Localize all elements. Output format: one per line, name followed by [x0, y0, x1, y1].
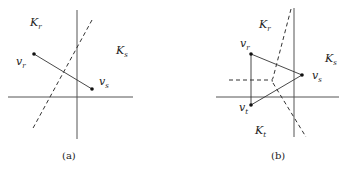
point-vs: [300, 73, 304, 77]
panel-b: Kr Ks Kt vr vs vt (b): [216, 8, 339, 161]
segment-vr-vs: [34, 54, 92, 89]
bisector-rs-dashed-line: [273, 9, 291, 78]
label-kr: Kr: [258, 18, 271, 33]
panel-a: Kr Ks vr vs (a): [8, 10, 133, 161]
junction-curve: [272, 78, 273, 83]
label-ks: Ks: [324, 52, 337, 67]
bisector-st-dashed-line: [273, 83, 306, 137]
point-vt: [249, 103, 253, 107]
label-kr: Kr: [29, 16, 42, 31]
label-vr: vr: [240, 37, 250, 52]
point-vr: [32, 52, 36, 56]
label-ks: Ks: [115, 44, 128, 59]
label-vs: vs: [99, 75, 109, 90]
bisector-dashed-line: [32, 20, 92, 130]
point-vr: [249, 52, 253, 56]
label-vt: vt: [239, 101, 248, 116]
figure-canvas: Kr Ks vr vs (a) Kr Ks Kt vr vs vt (b): [0, 0, 346, 170]
caption-a: (a): [62, 150, 76, 161]
caption-b: (b): [271, 150, 285, 161]
label-vs: vs: [312, 69, 322, 84]
label-vr: vr: [16, 55, 26, 70]
point-vs: [90, 87, 94, 91]
label-kt: Kt: [254, 124, 266, 139]
